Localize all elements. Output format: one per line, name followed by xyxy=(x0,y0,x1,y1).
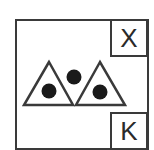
left-dot-icon xyxy=(42,84,57,99)
middle-dot-icon xyxy=(67,70,82,85)
left-triangle-icon xyxy=(24,62,73,105)
label-k-text: K xyxy=(120,118,137,144)
label-x-text: X xyxy=(120,25,137,51)
corner-label-x: X xyxy=(110,19,148,57)
right-dot-icon xyxy=(93,85,108,100)
corner-label-k: K xyxy=(110,112,148,150)
